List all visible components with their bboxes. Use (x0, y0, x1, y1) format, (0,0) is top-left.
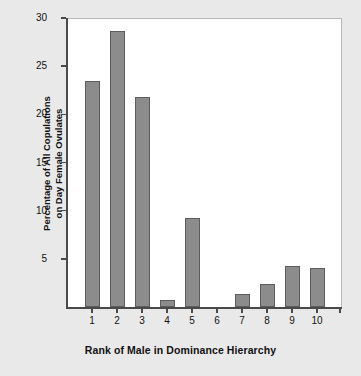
x-tick-mark (141, 308, 143, 313)
x-tick-label: 6 (205, 315, 229, 326)
bar (185, 218, 200, 307)
x-tick-mark-extra (339, 308, 341, 313)
x-tick-label: 10 (305, 315, 329, 326)
x-tick-label: 2 (105, 315, 129, 326)
bar (110, 31, 125, 307)
x-tick-mark (216, 308, 218, 313)
y-tick-label: 30 (7, 13, 47, 23)
y-tick-mark (61, 162, 66, 164)
x-tick-mark (316, 308, 318, 313)
bar (260, 284, 275, 307)
y-tick-mark (61, 258, 66, 260)
y-tick-mark (61, 65, 66, 67)
x-tick-label: 4 (155, 315, 179, 326)
plot-area (67, 18, 342, 308)
bar (85, 81, 100, 307)
x-axis-line (66, 307, 342, 309)
x-tick-mark (291, 308, 293, 313)
x-tick-label: 5 (180, 315, 204, 326)
x-tick-label: 7 (230, 315, 254, 326)
y-tick-mark (61, 17, 66, 19)
y-tick-mark (61, 114, 66, 116)
x-tick-mark (266, 308, 268, 313)
y-tick-label: 20 (7, 109, 47, 119)
x-tick-label: 1 (80, 315, 104, 326)
x-tick-mark (166, 308, 168, 313)
y-tick-label: 10 (7, 206, 47, 216)
y-tick-mark (61, 210, 66, 212)
bar-chart-figure: Percentage of All Copulations on Day Fem… (0, 0, 361, 376)
x-tick-mark (91, 308, 93, 313)
bar (160, 300, 175, 307)
x-tick-mark (116, 308, 118, 313)
x-tick-label: 9 (280, 315, 304, 326)
bar (235, 294, 250, 307)
x-tick-mark (241, 308, 243, 313)
y-tick-label: 15 (7, 158, 47, 168)
y-tick-label: 5 (7, 254, 47, 264)
y-tick-label: 25 (7, 61, 47, 71)
x-tick-label: 8 (255, 315, 279, 326)
x-tick-mark (191, 308, 193, 313)
bar (135, 97, 150, 307)
x-tick-label: 3 (130, 315, 154, 326)
bar (285, 266, 300, 307)
y-axis-line (66, 18, 68, 309)
x-axis-title: Rank of Male in Dominance Hierarchy (0, 344, 361, 356)
bar (310, 268, 325, 307)
